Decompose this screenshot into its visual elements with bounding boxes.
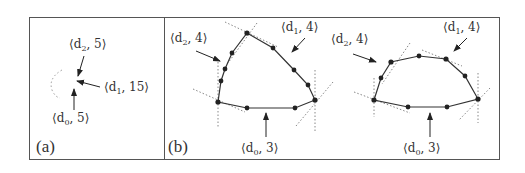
- figure-canvas: ⟨d2, 5⟩ ⟨d1, 15⟩ ⟨d0, 5⟩ (a) ⟨d2, 4⟩ ⟨d: [0, 0, 525, 173]
- polygon-vertices: [371, 54, 480, 110]
- panel-b-shape-2: ⟨d2, 4⟩ ⟨d1, 4⟩ ⟨d0, 3⟩: [331, 20, 490, 157]
- label-b2-d2: ⟨d2, 4⟩: [331, 32, 368, 48]
- polygon-outline: [218, 33, 315, 108]
- polygon-vertices: [215, 30, 317, 110]
- panel-label-b: (b): [168, 137, 188, 156]
- arrow-d1: [77, 81, 100, 87]
- arrow-d1: [454, 38, 467, 51]
- arrow-d2: [196, 51, 220, 61]
- panel-b-shape-1: ⟨d2, 4⟩ ⟨d1, 4⟩ ⟨d0, 3⟩ (b): [168, 20, 333, 157]
- label-b1-d1: ⟨d1, 4⟩: [281, 20, 318, 36]
- label-a-d2: ⟨d2, 5⟩: [69, 37, 106, 53]
- panel-a: ⟨d2, 5⟩ ⟨d1, 15⟩ ⟨d0, 5⟩ (a): [36, 37, 149, 156]
- arrow-d2: [78, 56, 84, 76]
- dotted-arc: [51, 70, 62, 98]
- label-b2-d1: ⟨d1, 4⟩: [443, 20, 480, 36]
- label-a-d0: ⟨d0, 5⟩: [52, 111, 89, 127]
- label-b2-d0: ⟨d0, 3⟩: [403, 141, 440, 157]
- arrow-d1: [292, 38, 305, 52]
- label-b1-d2: ⟨d2, 4⟩: [170, 31, 207, 47]
- tangent-lines: [193, 22, 333, 131]
- arrow-d2: [353, 54, 376, 62]
- label-b1-d0: ⟨d0, 3⟩: [241, 141, 278, 157]
- label-a-d1: ⟨d1, 15⟩: [104, 80, 149, 96]
- panel-label-a: (a): [36, 137, 55, 156]
